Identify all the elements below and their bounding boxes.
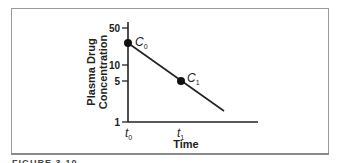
y-axis-title-line1: Plasma Drug xyxy=(85,38,97,105)
ytick-label-1: 1 xyxy=(114,117,120,128)
x-axis-title: Time xyxy=(173,138,198,150)
ytick-label-50: 50 xyxy=(109,23,121,34)
chart-svg: 50 10 5 1 Plasma Drug Concentration t0 t… xyxy=(0,0,338,163)
point-c0 xyxy=(124,39,132,47)
point-c1 xyxy=(177,77,185,85)
figure-caption: FIGURE 3-10 xyxy=(12,159,78,163)
ytick-label-10: 10 xyxy=(109,60,121,71)
ytick-label-5: 5 xyxy=(114,76,120,87)
label-c0: C0 xyxy=(135,35,148,50)
y-axis-title-line2: Concentration xyxy=(97,34,109,109)
concentration-line xyxy=(128,43,224,111)
xtick-label-t0: t0 xyxy=(125,126,132,141)
label-c1: C1 xyxy=(187,71,200,86)
